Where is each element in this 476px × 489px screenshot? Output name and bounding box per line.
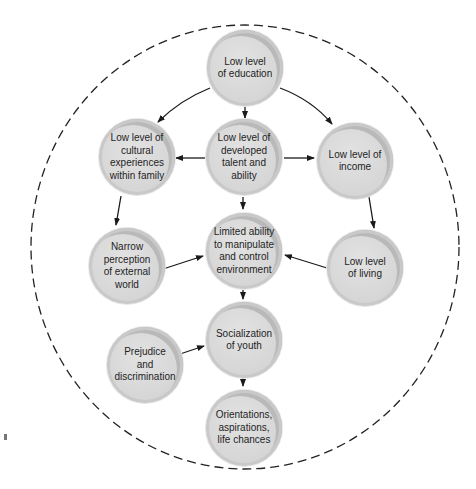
- node-label: Low level of education: [214, 56, 277, 81]
- node-low-level-of-education: Low level of education: [207, 30, 283, 106]
- node-label: Low level of developed talent and abilit…: [214, 132, 275, 182]
- node-label: Prejudice and discrimination: [110, 346, 179, 384]
- node-low-level-of-cultural-experiences: Low level of cultural experiences within…: [99, 119, 175, 195]
- arrow-prejudice-to-socialization: [180, 346, 204, 354]
- node-low-level-of-developed-talent: Low level of developed talent and abilit…: [206, 119, 282, 195]
- arrow-living-to-limited: [285, 255, 327, 268]
- node-label: Narrow perception of external world: [100, 241, 155, 291]
- arrow-education-to-income: [280, 88, 332, 124]
- node-low-level-of-income: Low level of income: [317, 123, 393, 199]
- arrow-cultural-to-narrow: [116, 196, 121, 225]
- arrow-narrow-to-limited: [163, 256, 203, 269]
- edge-artifact-mark: [4, 434, 7, 440]
- node-narrow-perception: Narrow perception of external world: [89, 228, 165, 304]
- node-socialization-of-youth: Socialization of youth: [206, 302, 282, 378]
- node-low-level-of-living: Low level of living: [327, 230, 403, 306]
- node-limited-ability: Limited ability to manipulate and contro…: [206, 213, 282, 289]
- arrow-income-to-living: [369, 197, 374, 228]
- node-label: Low level of cultural experiences within…: [106, 132, 168, 182]
- node-label: Low level of living: [340, 256, 390, 281]
- node-orientations-aspirations: Orientations, aspirations, life chances: [206, 390, 282, 466]
- node-label: Low level of income: [325, 149, 386, 174]
- poverty-cycle-diagram: Low level of education Low level of cult…: [0, 0, 476, 489]
- node-label: Limited ability to manipulate and contro…: [210, 226, 279, 276]
- node-prejudice-and-discrimination: Prejudice and discrimination: [107, 327, 183, 403]
- node-label: Socialization of youth: [212, 328, 276, 353]
- arrow-education-to-cultural: [158, 88, 210, 122]
- node-label: Orientations, aspirations, life chances: [212, 409, 277, 447]
